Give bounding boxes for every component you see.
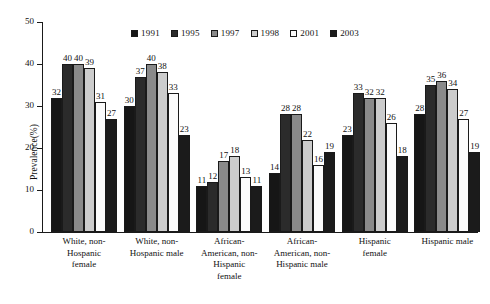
category-label: White, non-Hospanic male [118, 236, 196, 259]
bar-value-label: 32 [365, 87, 374, 97]
bar-group: 324040393127 [51, 22, 117, 232]
bar-value-label: 39 [85, 57, 94, 67]
bar-rect [124, 106, 135, 232]
bar[interactable]: 19 [469, 152, 480, 232]
category-label-line: Hispanic male [408, 236, 486, 248]
bar[interactable]: 32 [364, 98, 375, 232]
bar[interactable]: 12 [207, 182, 218, 232]
bar-value-label: 12 [208, 171, 217, 181]
bar-chart: 199119951997199820012003 01020304050 324… [0, 0, 490, 304]
bar-value-label: 37 [136, 66, 145, 76]
category-label: African-American, non-Hispanic male [263, 236, 341, 271]
bar-rect [397, 156, 408, 232]
bar[interactable]: 33 [353, 93, 364, 232]
bar-rect [146, 64, 157, 232]
bar[interactable]: 32 [375, 98, 386, 232]
y-tick-30: 30 [37, 106, 42, 107]
bar-group: 233332322618 [342, 22, 408, 232]
category-label-line: female [45, 259, 123, 271]
bar-value-label: 31 [96, 91, 105, 101]
bar[interactable]: 22 [302, 140, 313, 232]
category-label-line: female [336, 248, 414, 260]
bar-value-label: 30 [125, 95, 134, 105]
bar[interactable]: 40 [73, 64, 84, 232]
bar[interactable]: 26 [386, 123, 397, 232]
bar-value-label: 19 [470, 141, 479, 151]
y-tick-label: 50 [25, 16, 34, 27]
bar-rect [425, 85, 436, 232]
bar[interactable]: 16 [313, 165, 324, 232]
bar-value-label: 19 [325, 141, 334, 151]
bar-group: 142828221619 [269, 22, 335, 232]
category-label-line: female [190, 271, 268, 283]
bar[interactable]: 30 [124, 106, 135, 232]
bar-rect [353, 93, 364, 232]
bar-value-label: 11 [197, 175, 206, 185]
bar[interactable]: 23 [342, 135, 353, 232]
bar-value-label: 28 [292, 103, 301, 113]
bar-rect [196, 186, 207, 232]
bar[interactable]: 32 [51, 98, 62, 232]
bar-rect [157, 72, 168, 232]
bar-value-label: 14 [270, 162, 279, 172]
bar[interactable]: 31 [95, 102, 106, 232]
bar-value-label: 16 [314, 154, 323, 164]
bar-rect [291, 114, 302, 232]
bar-rect [62, 64, 73, 232]
bar[interactable]: 18 [397, 156, 408, 232]
bar-value-label: 28 [415, 103, 424, 113]
bar-value-label: 38 [158, 61, 167, 71]
bar-rect [414, 114, 425, 232]
bar[interactable]: 35 [425, 85, 436, 232]
bar[interactable]: 40 [146, 64, 157, 232]
bar[interactable]: 36 [436, 81, 447, 232]
bar[interactable]: 28 [280, 114, 291, 232]
bar[interactable]: 11 [196, 186, 207, 232]
category-label: African-American, non-Hispanicfemale [190, 236, 268, 282]
bar[interactable]: 37 [135, 77, 146, 232]
bar-rect [240, 177, 251, 232]
bar[interactable]: 13 [240, 177, 251, 232]
bar-rect [168, 93, 179, 232]
bar-rect [375, 98, 386, 232]
bar[interactable]: 18 [229, 156, 240, 232]
y-tick-label: 10 [25, 184, 34, 195]
bar[interactable]: 28 [291, 114, 302, 232]
bar-rect [229, 156, 240, 232]
y-axis-title: Prevalence(%) [29, 124, 39, 180]
bar[interactable]: 28 [414, 114, 425, 232]
bar-rect [135, 77, 146, 232]
bar[interactable]: 40 [62, 64, 73, 232]
bar[interactable]: 27 [458, 119, 469, 232]
bar-rect [302, 140, 313, 232]
bar-rect [73, 64, 84, 232]
category-label: Hispanicfemale [336, 236, 414, 259]
bar[interactable]: 34 [447, 89, 458, 232]
bar-group: 303740383323 [124, 22, 190, 232]
bar[interactable]: 39 [84, 68, 95, 232]
bar-group: 283536342719 [414, 22, 480, 232]
y-tick-label: 30 [25, 100, 34, 111]
bar[interactable]: 17 [218, 161, 229, 232]
bar-value-label: 34 [448, 78, 457, 88]
bar[interactable]: 38 [157, 72, 168, 232]
bar-value-label: 22 [303, 129, 312, 139]
bar-value-label: 18 [398, 145, 407, 155]
bar[interactable]: 23 [179, 135, 190, 232]
y-tick-label: 40 [25, 58, 34, 69]
category-label: Hispanic male [408, 236, 486, 248]
category-label-line: American, non- [190, 248, 268, 260]
bar[interactable]: 27 [106, 119, 117, 232]
bar-value-label: 23 [343, 124, 352, 134]
plot-area: 01020304050 3240403931273037403833231112… [42, 22, 478, 232]
bar-value-label: 40 [147, 53, 156, 63]
bar[interactable]: 11 [251, 186, 262, 232]
category-label: White, non-Hospanicfemale [45, 236, 123, 271]
bar[interactable]: 14 [269, 173, 280, 232]
bar-rect [218, 161, 229, 232]
bar[interactable]: 33 [168, 93, 179, 232]
bar[interactable]: 19 [324, 152, 335, 232]
bar-value-label: 35 [426, 74, 435, 84]
bar-value-label: 27 [459, 108, 468, 118]
bar-rect [469, 152, 480, 232]
